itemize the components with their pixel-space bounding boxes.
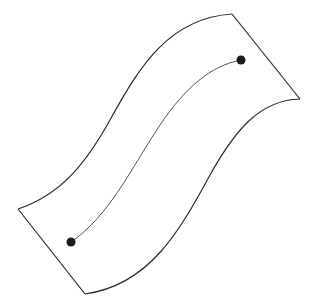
surface-diagram bbox=[0, 0, 313, 307]
geodesic-path bbox=[71, 60, 241, 242]
end-point bbox=[237, 56, 246, 65]
surface-bottom-edge bbox=[85, 99, 300, 294]
surface-top-edge bbox=[18, 14, 232, 209]
start-point bbox=[67, 238, 76, 247]
surface-left-edge bbox=[18, 209, 85, 294]
